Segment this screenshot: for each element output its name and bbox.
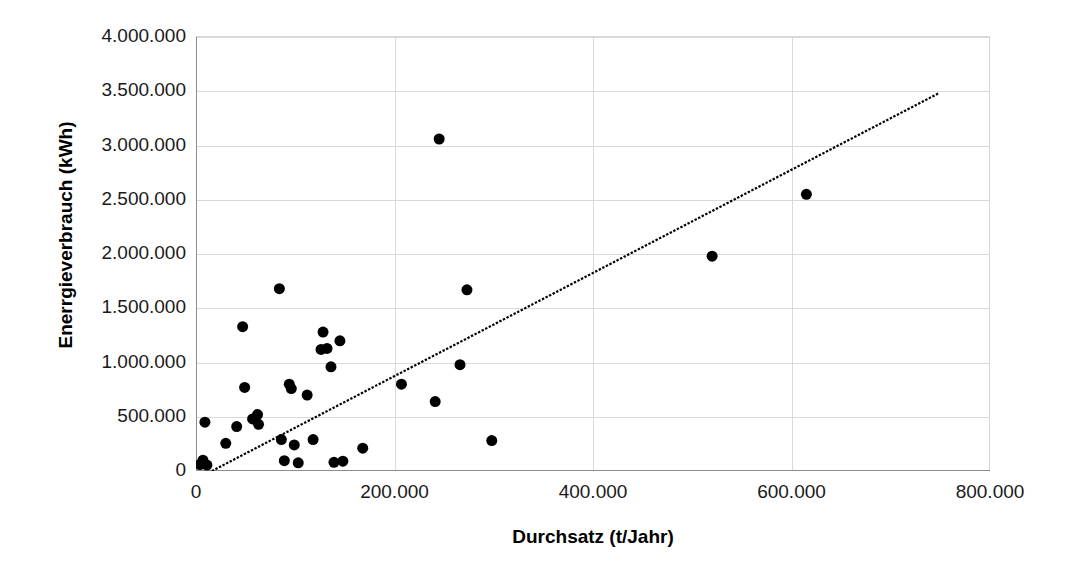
data-point	[276, 434, 287, 445]
data-point	[455, 359, 466, 370]
y-tick-label: 2.500.000	[101, 189, 186, 208]
x-tick-label: 400.000	[513, 482, 673, 501]
data-point	[302, 390, 313, 401]
data-point	[337, 456, 348, 467]
data-point	[274, 283, 285, 294]
scatter-chart: Enerrgieverbrauch (kWh) Durchsatz (t/Jah…	[0, 0, 1066, 575]
x-tick-label: 800.000	[910, 482, 1066, 501]
trend-line	[212, 93, 939, 471]
plot-canvas	[196, 37, 990, 471]
y-tick-label: 1.500.000	[101, 297, 186, 316]
data-point	[334, 335, 345, 346]
data-point	[289, 439, 300, 450]
trend-line-segment	[212, 93, 939, 471]
data-points	[196, 133, 812, 470]
y-tick-label: 2.000.000	[101, 243, 186, 262]
x-tick-label: 600.000	[712, 482, 872, 501]
x-tick-label: 0	[116, 482, 276, 501]
data-point	[252, 409, 263, 420]
data-point	[486, 435, 497, 446]
y-tick-label: 0	[175, 460, 186, 479]
data-point	[293, 457, 304, 468]
y-tick-label: 1.000.000	[101, 352, 186, 371]
data-point	[231, 421, 242, 432]
data-point	[201, 460, 212, 471]
data-point	[220, 438, 231, 449]
data-point	[325, 361, 336, 372]
y-tick-label: 4.000.000	[101, 26, 186, 45]
data-point	[396, 379, 407, 390]
data-point	[239, 382, 250, 393]
x-axis-title: Durchsatz (t/Jahr)	[196, 526, 990, 548]
data-point	[434, 133, 445, 144]
gridlines	[196, 37, 990, 471]
data-point	[318, 327, 329, 338]
data-point	[707, 251, 718, 262]
data-point	[199, 417, 210, 428]
y-tick-label: 3.000.000	[101, 135, 186, 154]
y-tick-label: 500.000	[117, 406, 186, 425]
data-point	[461, 284, 472, 295]
y-axis-title: Enerrgieverbrauch (kWh)	[44, 0, 88, 470]
data-point	[253, 419, 264, 430]
data-point	[801, 189, 812, 200]
data-point	[308, 434, 319, 445]
data-point	[322, 343, 333, 354]
x-tick-label: 200.000	[315, 482, 475, 501]
y-tick-label: 3.500.000	[101, 80, 186, 99]
plot-area	[196, 36, 990, 470]
data-point	[357, 443, 368, 454]
data-point	[279, 455, 290, 466]
data-point	[430, 396, 441, 407]
data-point	[237, 321, 248, 332]
data-point	[286, 383, 297, 394]
